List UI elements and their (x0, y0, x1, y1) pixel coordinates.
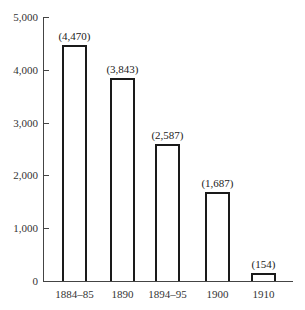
x-tick-label: 1894–95 (143, 288, 193, 300)
x-tick-label: 1890 (98, 288, 148, 300)
data-label: (1,687) (193, 177, 243, 189)
x-axis (43, 281, 293, 282)
bar-1910 (251, 273, 276, 281)
y-tick-label: 4,000 (2, 64, 38, 76)
data-label: (3,843) (98, 63, 148, 75)
y-tick-mark (43, 70, 49, 71)
y-tick-label: 2,000 (2, 169, 38, 181)
bar-chart: 01,0002,0003,0004,0005,000 (4,470)1884–8… (0, 0, 305, 310)
bar-1894–95 (155, 144, 180, 281)
y-tick-label: 5,000 (2, 11, 38, 23)
y-axis (43, 17, 44, 282)
bar-1884–85 (62, 45, 87, 281)
x-tick-label: 1910 (239, 288, 289, 300)
y-tick-label: 1,000 (2, 222, 38, 234)
bar-1900 (205, 192, 230, 281)
y-tick-mark (43, 175, 49, 176)
x-tick-label: 1884–85 (50, 288, 100, 300)
data-label: (2,587) (143, 129, 193, 141)
x-tick-label: 1900 (193, 288, 243, 300)
bar-1890 (110, 78, 135, 281)
data-label: (154) (239, 258, 289, 270)
y-tick-mark (43, 228, 49, 229)
y-tick-mark (43, 17, 49, 18)
data-label: (4,470) (50, 30, 100, 42)
y-tick-mark (43, 123, 49, 124)
y-tick-label: 3,000 (2, 117, 38, 129)
y-tick-label: 0 (2, 275, 38, 287)
